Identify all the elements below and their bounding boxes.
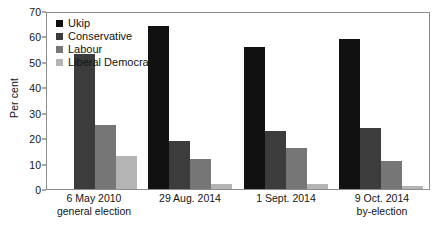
y-axis-tick-label: 0	[35, 184, 41, 196]
bar-ukip	[339, 39, 360, 189]
bar-liberal-democrat	[402, 186, 423, 189]
legend-item-liberal-democrat: Liberal Democrat	[56, 56, 152, 69]
x-axis-group-label: 29 Aug. 2014	[142, 192, 238, 217]
figure: Per cent 010203040506070 UkipConservativ…	[0, 0, 439, 227]
bar-labour	[95, 125, 116, 189]
x-axis-group-label: 1 Sept. 2014	[238, 192, 334, 217]
bar-conservative	[360, 128, 381, 189]
legend: UkipConservativeLabourLiberal Democrat	[56, 17, 152, 69]
legend-swatch-icon	[56, 59, 63, 66]
bar-labour	[190, 159, 211, 190]
x-axis-label-line2: by-election	[334, 205, 430, 218]
x-axis-group-label: 9 Oct. 2014by-election	[334, 192, 430, 217]
x-axis-label-line1: 6 May 2010	[67, 192, 122, 204]
legend-label: Conservative	[68, 31, 132, 42]
legend-label: Liberal Democrat	[68, 57, 152, 68]
bar-liberal-democrat	[307, 184, 328, 189]
x-axis-label-line1: 1 Sept. 2014	[256, 192, 316, 204]
legend-item-ukip: Ukip	[56, 17, 152, 30]
y-axis-tick-label: 50	[29, 57, 41, 69]
legend-swatch-icon	[56, 46, 63, 53]
legend-label: Ukip	[68, 18, 90, 29]
x-axis-label-line1: 9 Oct. 2014	[355, 192, 409, 204]
bar-group	[238, 13, 334, 189]
x-axis-label-line1: 29 Aug. 2014	[159, 192, 221, 204]
bar-liberal-democrat	[116, 156, 137, 189]
y-axis-tick-label: 30	[29, 108, 41, 120]
x-axis-group-label: 6 May 2010general election	[46, 192, 142, 217]
x-axis-label-line2: general election	[46, 205, 142, 218]
y-axis-tick-label: 60	[29, 31, 41, 43]
legend-item-labour: Labour	[56, 43, 152, 56]
legend-swatch-icon	[56, 33, 63, 40]
legend-label: Labour	[68, 44, 102, 55]
legend-swatch-icon	[56, 20, 63, 27]
legend-item-conservative: Conservative	[56, 30, 152, 43]
plot-area: UkipConservativeLabourLiberal Democrat	[46, 12, 430, 190]
bar-ukip	[244, 47, 265, 189]
y-axis-tick-label: 20	[29, 133, 41, 145]
bar-labour	[381, 161, 402, 189]
bar-conservative	[74, 54, 95, 189]
bar-labour	[286, 148, 307, 189]
bar-liberal-democrat	[211, 184, 232, 189]
y-axis-tick-label: 10	[29, 159, 41, 171]
y-axis-tick-label: 40	[29, 82, 41, 94]
x-axis-tick-labels: 6 May 2010general election29 Aug. 20141 …	[46, 192, 430, 217]
y-axis-title: Per cent	[8, 63, 20, 133]
y-axis-tick-labels: 010203040506070	[20, 12, 46, 190]
bar-conservative	[265, 131, 286, 189]
bar-group	[334, 13, 430, 189]
figure-caption	[6, 219, 436, 227]
y-axis-tick-label: 70	[29, 6, 41, 18]
bar-group	[143, 13, 239, 189]
bar-conservative	[169, 141, 190, 189]
